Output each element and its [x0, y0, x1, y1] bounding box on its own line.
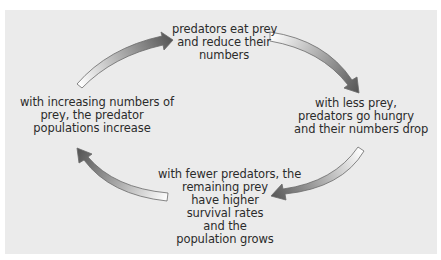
node-right: with less prey, predators go hungry and … — [294, 97, 418, 136]
arrow-left-to-top — [77, 32, 173, 88]
node-top-line: numbers — [172, 49, 276, 62]
node-right-line: and their numbers drop — [294, 123, 418, 136]
node-bottom: with fewer predators, the remaining prey… — [158, 168, 292, 246]
node-top: predators eat prey and reduce their numb… — [172, 23, 276, 62]
node-left-line: populations increase — [20, 122, 164, 135]
node-bottom-line: population grows — [158, 233, 292, 246]
arrow-bottom-to-left — [77, 148, 168, 201]
arrow-top-to-right — [270, 32, 359, 93]
node-left: with increasing numbers of prey, the pre… — [20, 96, 164, 135]
